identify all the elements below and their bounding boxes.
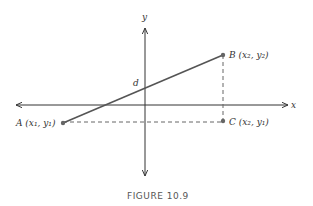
y-axis-label: y [141, 12, 148, 22]
x-axis-label: x [291, 100, 296, 110]
segment-label-d: d [133, 78, 139, 88]
distance-diagram: x y A (x₁, y₁) B (x₂, y₂) C (x₂, y₁) d F… [0, 0, 313, 206]
point-a-label: A (x₁, y₁) [15, 118, 56, 128]
point-c [221, 119, 225, 123]
figure-caption: FIGURE 10.9 [127, 191, 189, 201]
segment-d [63, 55, 223, 123]
point-a [61, 121, 65, 125]
point-b-label: B (x₂, y₂) [228, 50, 269, 60]
point-c-label: C (x₂, y₁) [229, 117, 269, 127]
point-b [221, 53, 225, 57]
